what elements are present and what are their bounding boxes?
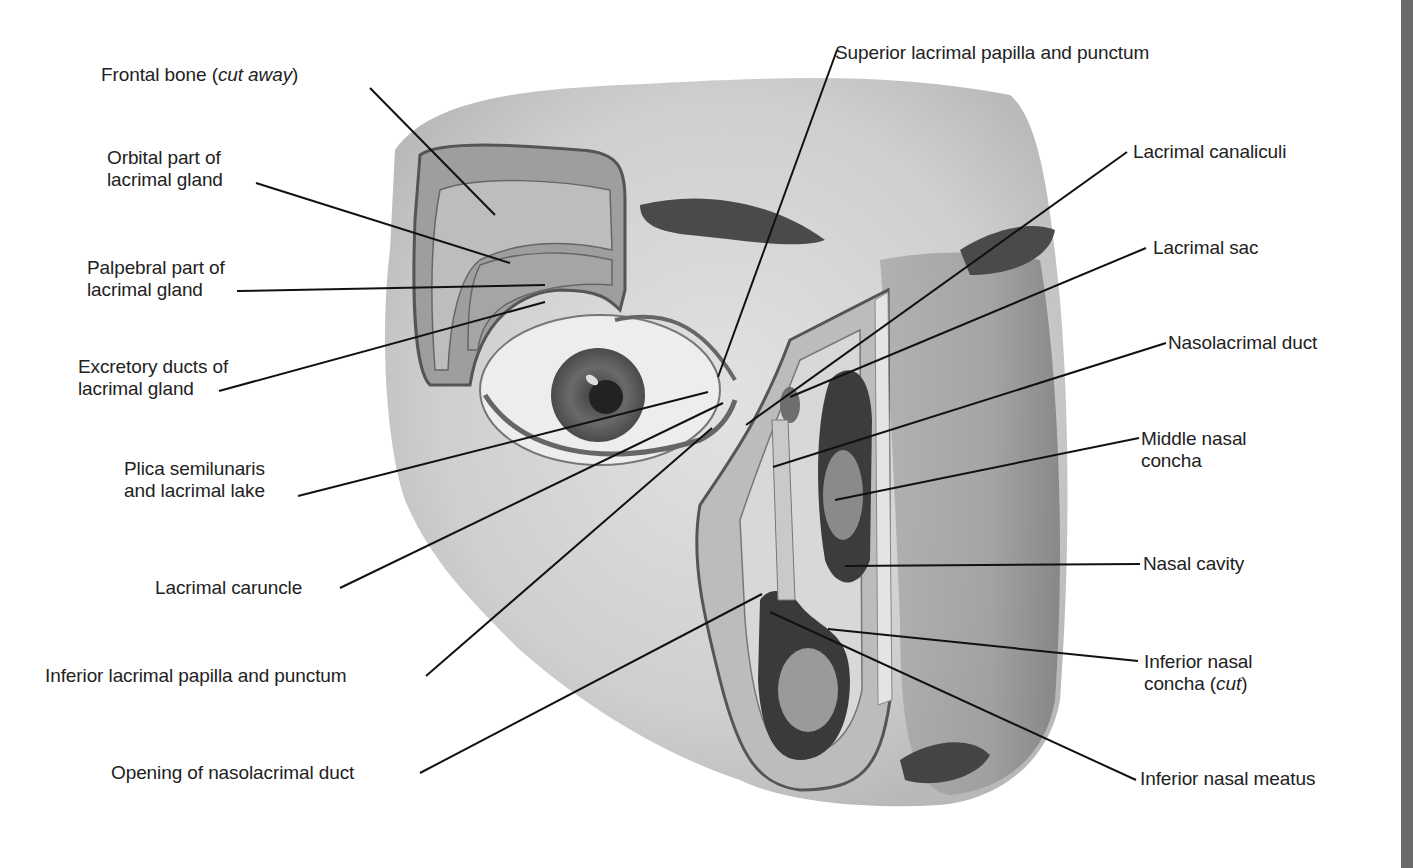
label-superior-lacrimal-papilla: Superior lacrimal papilla and punctum	[835, 42, 1149, 64]
label-orbital-part-of-lacrimal-gland: Orbital part oflacrimal gland	[107, 147, 223, 191]
label-excretory-ducts: Excretory ducts oflacrimal gland	[78, 356, 228, 400]
page-edge-strip	[1401, 0, 1413, 868]
label-lacrimal-canaliculi: Lacrimal canaliculi	[1133, 141, 1286, 163]
label-frontal-bone: Frontal bone (cut away)	[101, 64, 298, 86]
label-middle-nasal-concha: Middle nasalconcha	[1141, 428, 1246, 472]
label-nasal-cavity: Nasal cavity	[1143, 553, 1244, 575]
anatomy-figure: Frontal bone (cut away) Orbital part ofl…	[0, 0, 1413, 868]
label-plica-semilunaris: Plica semilunarisand lacrimal lake	[124, 458, 265, 502]
label-inferior-lacrimal-papilla: Inferior lacrimal papilla and punctum	[45, 665, 347, 687]
nose-shade	[880, 253, 1060, 796]
label-opening-of-nasolacrimal-duct: Opening of nasolacrimal duct	[111, 762, 354, 784]
label-inferior-nasal-meatus: Inferior nasal meatus	[1140, 768, 1315, 790]
label-lacrimal-caruncle: Lacrimal caruncle	[155, 577, 302, 599]
inferior-nasal-concha	[778, 648, 838, 732]
label-palpebral-part-of-lacrimal-gland: Palpebral part oflacrimal gland	[87, 257, 225, 301]
label-lacrimal-sac: Lacrimal sac	[1153, 237, 1258, 259]
label-inferior-nasal-concha: Inferior nasalconcha (cut)	[1144, 651, 1252, 695]
label-nasolacrimal-duct: Nasolacrimal duct	[1168, 332, 1317, 354]
